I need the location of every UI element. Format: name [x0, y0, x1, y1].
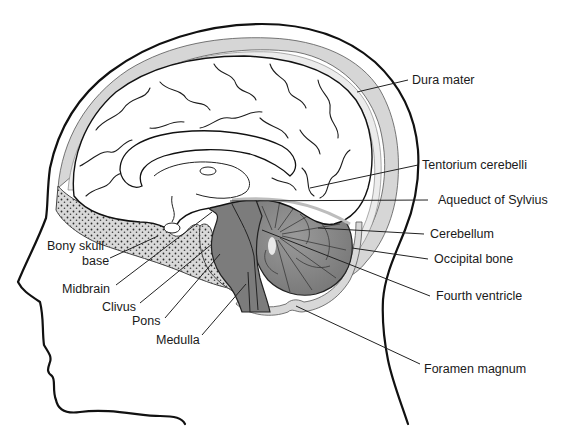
label-foramen-magnum: Foramen magnum [424, 362, 526, 376]
label-occipital-bone: Occipital bone [434, 252, 513, 266]
label-bony-skull-base-line2: base [82, 254, 109, 268]
label-cerebellum: Cerebellum [430, 227, 494, 241]
label-pons: Pons [132, 314, 161, 328]
label-tentorium-cerebelli: Tentorium cerebelli [422, 158, 527, 172]
brain-anatomy-diagram: Dura mater Tentorium cerebelli Aqueduct … [0, 0, 565, 444]
label-fourth-ventricle: Fourth ventricle [436, 289, 522, 303]
label-aqueduct-of-sylvius: Aqueduct of Sylvius [438, 193, 548, 207]
fourth-ventricle-light [268, 237, 276, 255]
label-medulla: Medulla [156, 333, 200, 347]
label-midbrain: Midbrain [62, 282, 110, 296]
pituitary-gland [164, 223, 180, 233]
label-dura-mater: Dura mater [412, 73, 475, 87]
diagram-canvas: Dura mater Tentorium cerebelli Aqueduct … [0, 0, 565, 444]
label-clivus: Clivus [102, 300, 136, 314]
label-bony-skull-base: Bony skull [47, 239, 104, 253]
